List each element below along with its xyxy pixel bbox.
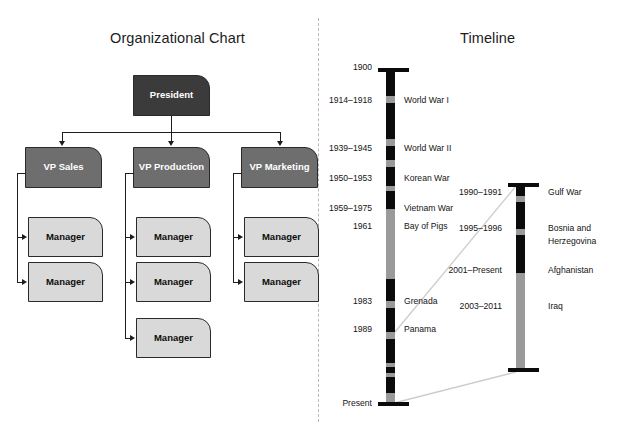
org-node-manager[interactable]: Manager [136, 262, 211, 302]
org-chart-title: Organizational Chart [110, 30, 245, 46]
timeline-event-label: World War I [404, 95, 449, 107]
org-node-label: Manager [154, 277, 193, 287]
panel-divider [318, 18, 319, 422]
connector-marketing-entry [233, 173, 242, 174]
org-node-label: Manager [154, 232, 193, 242]
arrow-sales-mgr1 [22, 234, 27, 240]
org-node-label: Manager [46, 277, 85, 287]
timeline-year-label: 1950–1953 [300, 173, 372, 183]
timeline-year-label: 1914–1918 [300, 95, 372, 105]
timeline-year-label: 2001–Present [412, 265, 502, 275]
timeline-segment [516, 235, 525, 273]
timeline-year-label: 1983 [300, 296, 372, 306]
connector-sales-entry [17, 173, 26, 174]
timeline-segment [386, 308, 395, 332]
org-node-manager[interactable]: Manager [136, 217, 211, 257]
timeline-segment [386, 146, 395, 160]
timeline-year-label: 1990–1991 [420, 187, 502, 197]
connector-production-entry [125, 173, 134, 174]
arrow-marketing-mgr2 [238, 279, 243, 285]
connector-president-stem [171, 116, 172, 132]
timeline-segment [516, 202, 525, 229]
timeline-year-label: 2003–2011 [420, 301, 502, 311]
arrow-sales-mgr2 [22, 279, 27, 285]
timeline-year-label: 1939–1945 [300, 143, 372, 153]
timeline-segment [386, 279, 395, 301]
timeline-cap-bottom [378, 402, 409, 406]
timeline-event-label: Bosnia and [548, 223, 591, 235]
timeline-event-label: Iraq [548, 301, 563, 313]
org-node-label: Manager [262, 232, 301, 242]
timeline-year-label: 1900 [300, 62, 372, 72]
timeline-title: Timeline [460, 30, 515, 46]
org-node-vp-production[interactable]: VP Production [133, 147, 210, 188]
arrow-vp-production [168, 141, 174, 146]
timeline-segment [386, 339, 395, 363]
arrow-marketing-mgr1 [238, 234, 243, 240]
arrow-production-mgr2 [130, 279, 135, 285]
arrow-production-mgr1 [130, 234, 135, 240]
timeline-segment [386, 167, 395, 186]
timeline-segment [386, 367, 395, 373]
timeline-event-label: Vietnam War [404, 203, 453, 215]
timeline-year-label: Present [300, 398, 372, 408]
figure-canvas: Organizational Chart Timeline President … [0, 0, 623, 440]
timeline-event-label: Gulf War [548, 187, 582, 199]
org-node-label: VP Marketing [249, 162, 309, 172]
timeline-segment [386, 191, 395, 209]
timeline-event-label: Panama [404, 324, 436, 336]
timeline-detail-bar[interactable] [516, 183, 525, 371]
timeline-event-label: Korean War [404, 173, 450, 185]
connector-marketing-spine [233, 173, 234, 282]
org-node-label: Manager [154, 333, 193, 343]
timeline-segment [516, 183, 525, 196]
timeline-year-label: 1961 [300, 221, 372, 231]
timeline-main-bar[interactable] [386, 68, 395, 406]
timeline-segment [386, 377, 395, 393]
timeline-year-label: 1995–1996 [420, 223, 502, 233]
org-node-president[interactable]: President [133, 75, 210, 116]
arrow-vp-sales [59, 141, 65, 146]
org-node-label: Manager [46, 232, 85, 242]
org-node-manager[interactable]: Manager [28, 217, 103, 257]
org-node-label: VP Production [139, 162, 204, 172]
timeline-segment [386, 103, 395, 139]
timeline-detail-cap-bottom [508, 368, 539, 372]
timeline-year-label: 1959–1975 [300, 203, 372, 213]
org-node-vp-sales[interactable]: VP Sales [25, 147, 102, 188]
timeline-event-label: Afghanistan [548, 265, 593, 277]
org-node-label: VP Sales [44, 162, 84, 172]
arrow-production-mgr3 [130, 335, 135, 341]
timeline-year-label: 1989 [300, 324, 372, 334]
org-node-label: President [150, 90, 193, 100]
timeline-segment [386, 68, 395, 96]
arrow-vp-marketing [277, 141, 283, 146]
timeline-event-label: World War II [404, 143, 451, 155]
connector-production-spine [125, 173, 126, 338]
connector-sales-spine [17, 173, 18, 282]
org-node-manager[interactable]: Manager [28, 262, 103, 302]
org-node-label: Manager [262, 277, 301, 287]
org-node-manager[interactable]: Manager [136, 318, 211, 358]
timeline-event-label: Herzegovina [548, 236, 596, 248]
